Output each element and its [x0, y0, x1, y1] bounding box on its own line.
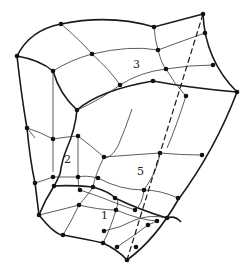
patch-labels: 1 2 3 5: [64, 58, 144, 222]
patch-label-5: 5: [137, 165, 144, 178]
mesh-lines: [27, 24, 213, 247]
patch-label-2: 2: [64, 153, 71, 166]
dashed-diagonal: [127, 14, 203, 260]
mesh-diagram: 1 2 3 5: [0, 0, 250, 274]
patch-label-3: 3: [133, 58, 140, 71]
patch-label-1: 1: [101, 209, 108, 222]
